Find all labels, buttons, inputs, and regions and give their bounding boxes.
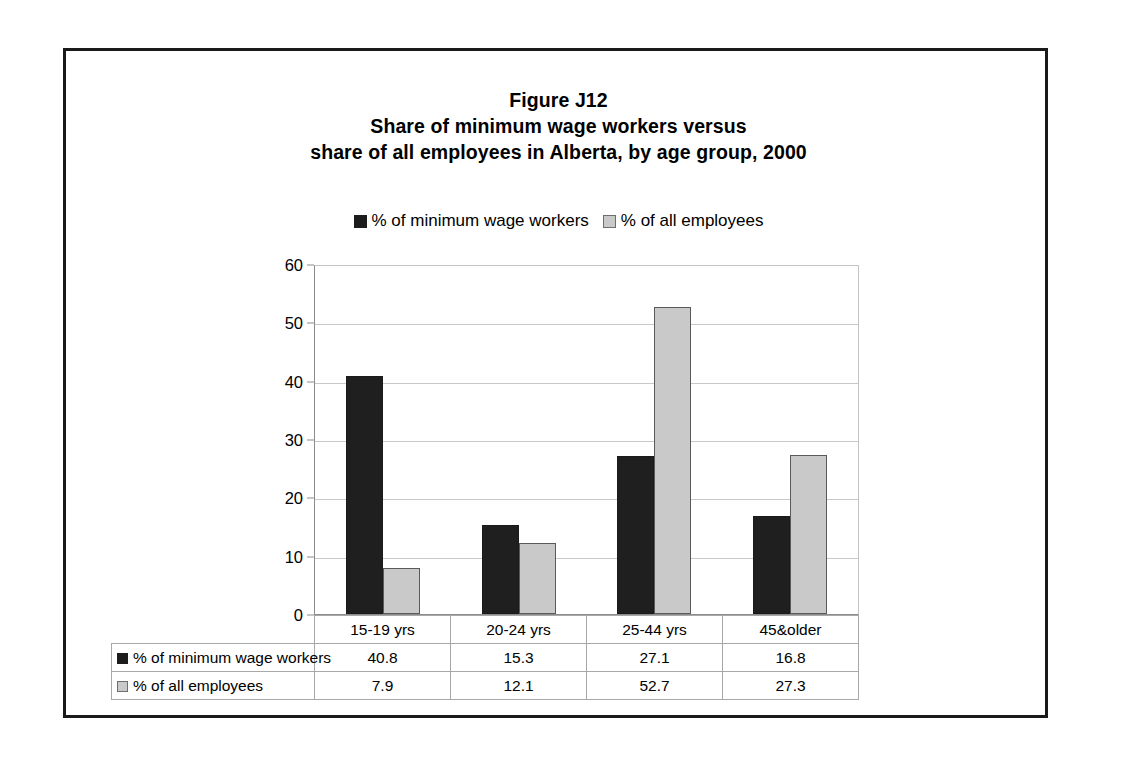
table-label-text-all-employees: % of all employees	[133, 677, 263, 694]
y-tick-label-10: 10	[243, 547, 303, 566]
bar-group-15-19	[315, 266, 451, 614]
table-cell-mw-45-older: 16.8	[723, 644, 859, 672]
bar-all-employees-15-19	[383, 568, 420, 614]
title-line-3: share of all employees in Alberta, by ag…	[66, 139, 1051, 165]
table-header-45-older: 45&older	[723, 616, 859, 644]
y-tick-mark-50	[307, 323, 314, 324]
data-table: 15-19 yrs 20-24 yrs 25-44 yrs 45&older %…	[111, 615, 859, 700]
table-label-all-employees: % of all employees	[112, 672, 315, 700]
dark-square-icon	[117, 653, 128, 664]
figure-frame: Figure J12 Share of minimum wage workers…	[63, 48, 1048, 718]
chart-title-block: Figure J12 Share of minimum wage workers…	[66, 87, 1051, 165]
title-line-1: Figure J12	[66, 87, 1051, 113]
bar-minimum-wage-25-44	[617, 456, 654, 614]
table-label-minimum-wage-workers: % of minimum wage workers	[112, 644, 315, 672]
table-cell-mw-20-24: 15.3	[451, 644, 587, 672]
table-row-all-employees: % of all employees 7.9 12.1 52.7 27.3	[112, 672, 859, 700]
light-square-icon	[117, 681, 128, 692]
bar-all-employees-20-24	[519, 543, 556, 614]
bar-minimum-wage-15-19	[346, 376, 383, 614]
bars-layer	[315, 266, 858, 614]
chart-legend: % of minimum wage workers % of all emplo…	[66, 211, 1051, 231]
dark-square-icon	[354, 215, 367, 228]
y-tick-mark-60	[307, 265, 314, 266]
table-header-20-24: 20-24 yrs	[451, 616, 587, 644]
title-line-2: Share of minimum wage workers versus	[66, 113, 1051, 139]
table-row-minimum-wage-workers: % of minimum wage workers 40.8 15.3 27.1…	[112, 644, 859, 672]
table-cell-ae-15-19: 7.9	[315, 672, 451, 700]
table-label-text-minimum-wage: % of minimum wage workers	[133, 649, 331, 666]
plot-wrapper: 60 50 40 30 20 10 0	[314, 265, 859, 615]
legend-entry-minimum-wage-workers: % of minimum wage workers	[354, 211, 589, 231]
table-header-15-19: 15-19 yrs	[315, 616, 451, 644]
bar-minimum-wage-45-older	[753, 516, 790, 614]
table-header-row: 15-19 yrs 20-24 yrs 25-44 yrs 45&older	[112, 616, 859, 644]
bar-all-employees-45-older	[790, 455, 827, 614]
y-tick-label-40: 40	[243, 372, 303, 391]
bar-group-25-44	[587, 266, 723, 614]
light-square-icon	[603, 215, 616, 228]
table-cell-ae-45-older: 27.3	[723, 672, 859, 700]
table-cell-ae-25-44: 52.7	[587, 672, 723, 700]
bar-minimum-wage-20-24	[482, 525, 519, 614]
table-cell-ae-20-24: 12.1	[451, 672, 587, 700]
table-cell-mw-15-19: 40.8	[315, 644, 451, 672]
table-corner-cell	[112, 616, 315, 644]
y-tick-label-20: 20	[243, 489, 303, 508]
y-tick-label-50: 50	[243, 314, 303, 333]
y-tick-mark-40	[307, 381, 314, 382]
table-header-25-44: 25-44 yrs	[587, 616, 723, 644]
legend-label-minimum-wage-workers: % of minimum wage workers	[372, 211, 589, 231]
bar-group-45-older	[722, 266, 858, 614]
y-tick-mark-10	[307, 556, 314, 557]
y-tick-label-60: 60	[243, 256, 303, 275]
bar-all-employees-25-44	[654, 307, 691, 614]
y-tick-label-30: 30	[243, 431, 303, 450]
bar-group-20-24	[451, 266, 587, 614]
plot-area	[314, 265, 859, 615]
y-tick-mark-20	[307, 498, 314, 499]
legend-label-all-employees: % of all employees	[621, 211, 764, 231]
table-cell-mw-25-44: 27.1	[587, 644, 723, 672]
y-tick-mark-30	[307, 440, 314, 441]
legend-entry-all-employees: % of all employees	[603, 211, 764, 231]
